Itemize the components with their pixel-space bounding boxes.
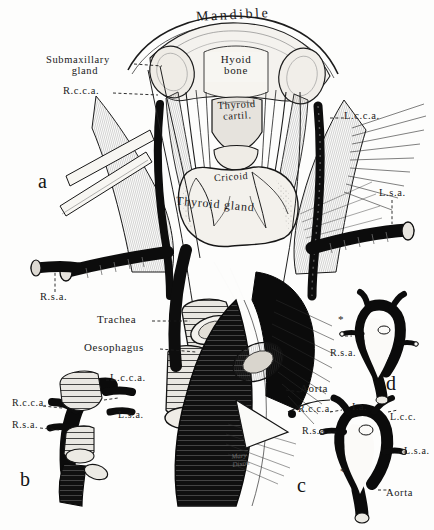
panel-letter-a: a <box>38 170 47 193</box>
hyoid-bone-label-box <box>205 52 267 82</box>
panel-letter-b: b <box>20 468 30 491</box>
panel-letter-c: c <box>297 474 306 497</box>
anatomical-plate: Mandible Submaxillary gland R.c.c.a. Hyo… <box>0 0 434 530</box>
panel-letter-d: d <box>386 372 396 395</box>
artist-signature: Mary Dixon <box>231 451 250 469</box>
